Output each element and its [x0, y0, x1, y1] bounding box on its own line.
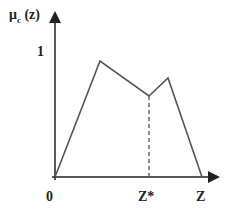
y-tick-1: 1 [37, 45, 44, 59]
x-axis-label: Z [196, 190, 205, 204]
origin-label: 0 [46, 190, 53, 204]
z-star-label: Z* [138, 190, 154, 204]
y-axis-label: μc (z) [9, 8, 40, 25]
membership-curve [55, 61, 202, 177]
chart-canvas [0, 0, 235, 214]
